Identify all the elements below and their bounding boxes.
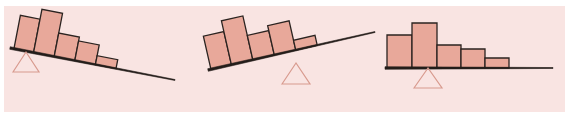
balance-histograms-figure: [0, 0, 579, 118]
figure-root: [0, 0, 579, 118]
histogram-bar: [485, 58, 509, 68]
histogram-bar: [461, 49, 485, 68]
histogram-bar: [412, 23, 437, 68]
histogram-bar: [437, 45, 461, 68]
histogram-bar: [387, 35, 412, 68]
